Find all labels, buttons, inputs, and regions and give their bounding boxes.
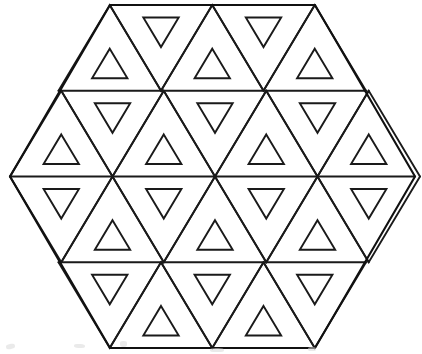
inner-triangle-up [44, 134, 79, 164]
inner-triangle-up [92, 49, 127, 79]
scan-smudge [210, 348, 224, 352]
inner-triangle-up [297, 49, 332, 79]
inner-triangle-down [246, 18, 281, 48]
inner-triangle-up [300, 220, 335, 250]
inner-triangle-up [143, 306, 178, 336]
scan-smudge [74, 344, 85, 349]
inner-triangle-down [351, 189, 386, 219]
inner-triangle-up [146, 134, 181, 164]
inner-triangle-down [249, 189, 284, 219]
inner-triangle-down [95, 103, 130, 133]
inner-triangle-up [246, 306, 281, 336]
triangle-cell-edges-group [10, 5, 420, 348]
scan-smudge [308, 347, 316, 351]
inner-triangle-down [92, 275, 127, 305]
inner-triangle-down [300, 103, 335, 133]
scan-smudge [120, 341, 127, 347]
inner-triangle-down [143, 18, 178, 48]
figure-root [0, 0, 422, 354]
inner-triangle-up [95, 220, 130, 250]
hexagon-triangle-tiling [0, 0, 422, 354]
inner-triangle-up [197, 220, 232, 250]
inner-triangle-down [197, 103, 232, 133]
inner-triangle-up [249, 134, 284, 164]
inner-triangle-down [297, 275, 332, 305]
inner-triangle-down [195, 275, 230, 305]
inner-triangle-up [195, 49, 230, 79]
inner-triangle-up [351, 134, 386, 164]
inner-triangle-down [146, 189, 181, 219]
inner-triangle-down [44, 189, 79, 219]
